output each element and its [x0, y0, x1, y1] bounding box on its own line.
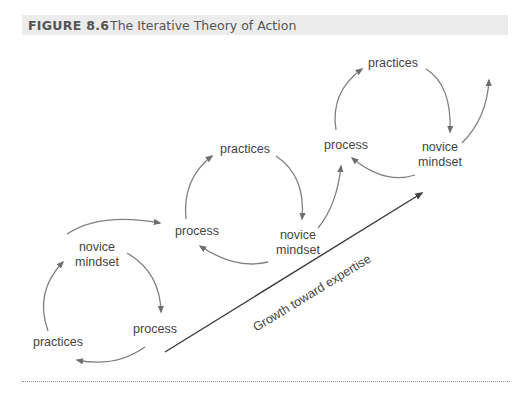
c1-process-label: process	[133, 322, 177, 337]
c2-novice-text: novice	[276, 228, 320, 243]
growth-arrow-line	[165, 193, 422, 352]
c1-novice-text: novice	[75, 240, 119, 255]
arrow-c1-practices-to-novice	[43, 262, 63, 331]
arrow-c1-novice-to-process	[127, 253, 161, 312]
c1-mindset-text: mindset	[75, 255, 119, 270]
c2-novice-mindset-label: novice mindset	[276, 228, 320, 258]
bottom-dotted-divider	[22, 381, 510, 382]
arrow-c1-process-to-practices	[77, 347, 145, 362]
c3-process-label: process	[324, 138, 368, 153]
arrow-c2-process-to-practices	[186, 156, 212, 219]
arrow-c2-novice-to-process	[200, 246, 268, 264]
arrow-c3-process-to-practices	[335, 69, 362, 130]
c2-process-label: process	[175, 224, 219, 239]
c3-novice-text: novice	[418, 140, 462, 155]
arrow-c1-novice-to-c2-process	[67, 219, 160, 234]
arrow-c3-practices-to-novice	[426, 69, 450, 132]
arrow-c2-novice-to-c3-process	[318, 166, 341, 228]
c1-novice-mindset-label: novice mindset	[75, 240, 119, 270]
c2-practices-label: practices	[220, 142, 270, 157]
arrow-c3-novice-out	[462, 80, 489, 143]
arrow-c2-practices-to-novice	[276, 156, 302, 219]
c3-practices-label: practices	[368, 56, 418, 71]
c2-mindset-text: mindset	[276, 243, 320, 258]
c3-novice-mindset-label: novice mindset	[418, 140, 462, 170]
arrow-c3-novice-to-process	[352, 158, 415, 178]
c1-practices-label: practices	[33, 335, 83, 350]
c3-mindset-text: mindset	[418, 155, 462, 170]
